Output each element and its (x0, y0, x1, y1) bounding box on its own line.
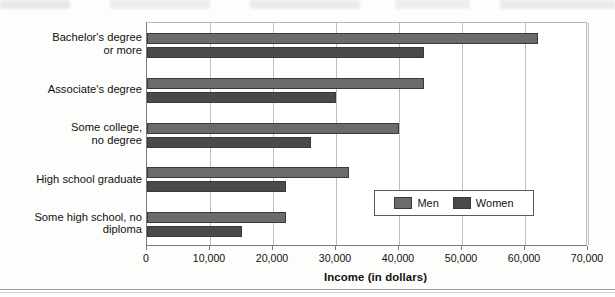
x-axis-tick (146, 246, 147, 250)
x-axis-tick (335, 246, 336, 250)
bar-women-0 (147, 47, 424, 58)
x-axis-tick-label: 40,000 (382, 252, 414, 264)
x-axis-tick-label: 0 (143, 252, 149, 264)
x-axis-tick-label: 70,000 (571, 252, 603, 264)
bar-women-2 (147, 137, 311, 148)
category-label-4: Some high school, no diploma (0, 211, 142, 236)
bar-men-1 (147, 78, 424, 89)
x-axis-tick-label: 60,000 (508, 252, 540, 264)
page-divider-rule (0, 289, 615, 290)
bar-women-4 (147, 226, 242, 237)
bar-women-3 (147, 181, 286, 192)
bar-men-0 (147, 33, 538, 44)
category-label-0: Bachelor's degree or more (0, 32, 142, 57)
x-axis-tick (398, 246, 399, 250)
x-axis-tick (209, 246, 210, 250)
bar-men-4 (147, 212, 286, 223)
legend-swatch-men (394, 197, 412, 209)
gridline (588, 23, 589, 245)
legend-swatch-women (453, 197, 471, 209)
x-axis-tick (461, 246, 462, 250)
x-axis-tick (272, 246, 273, 250)
bar-men-2 (147, 123, 399, 134)
x-axis-title-text: Income (in dollars) (324, 271, 427, 283)
income-by-education-bar-chart: Bachelor's degree or moreAssociate's deg… (0, 0, 615, 297)
category-axis-labels: Bachelor's degree or moreAssociate's deg… (0, 22, 142, 246)
category-label-3: High school graduate (0, 173, 142, 186)
legend-entry-men: Men (394, 197, 438, 209)
bar-women-1 (147, 92, 336, 103)
x-axis-tick (587, 246, 588, 250)
legend-label-women: Women (476, 197, 514, 209)
chart-legend: Men Women (374, 190, 534, 216)
legend-label-men: Men (417, 197, 438, 209)
legend-entry-women: Women (453, 197, 514, 209)
page-divider-rule-secondary (0, 292, 615, 293)
category-label-1: Associate's degree (0, 83, 142, 96)
bar-men-3 (147, 167, 349, 178)
x-axis-tick-label: 30,000 (319, 252, 351, 264)
category-label-2: Some college, no degree (0, 121, 142, 146)
x-axis-tick (524, 246, 525, 250)
x-axis-title: Income (in dollars) (0, 271, 615, 283)
x-axis-tick-label: 50,000 (445, 252, 477, 264)
x-axis-tick-label: 20,000 (256, 252, 288, 264)
x-axis-tick-label: 10,000 (193, 252, 225, 264)
